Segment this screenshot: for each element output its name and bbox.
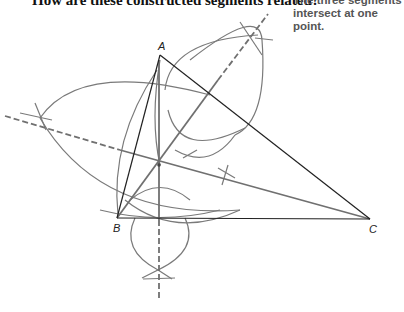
segment-3-dashed <box>218 14 268 80</box>
segment-1-solid <box>120 150 370 219</box>
segment-1-dashed <box>5 116 120 150</box>
geometric-construction-figure: A B C <box>0 0 404 312</box>
intersection-point <box>157 163 161 167</box>
vertex-label-c: C <box>369 223 377 235</box>
constructed-segments <box>5 14 370 300</box>
segment-3-solid <box>117 80 218 218</box>
triangle-abc <box>117 55 370 219</box>
construction-arcs <box>20 22 273 279</box>
vertex-label-a: A <box>157 40 165 52</box>
side-bc <box>117 218 370 219</box>
side-ac <box>160 55 370 219</box>
vertex-label-b: B <box>113 222 120 234</box>
